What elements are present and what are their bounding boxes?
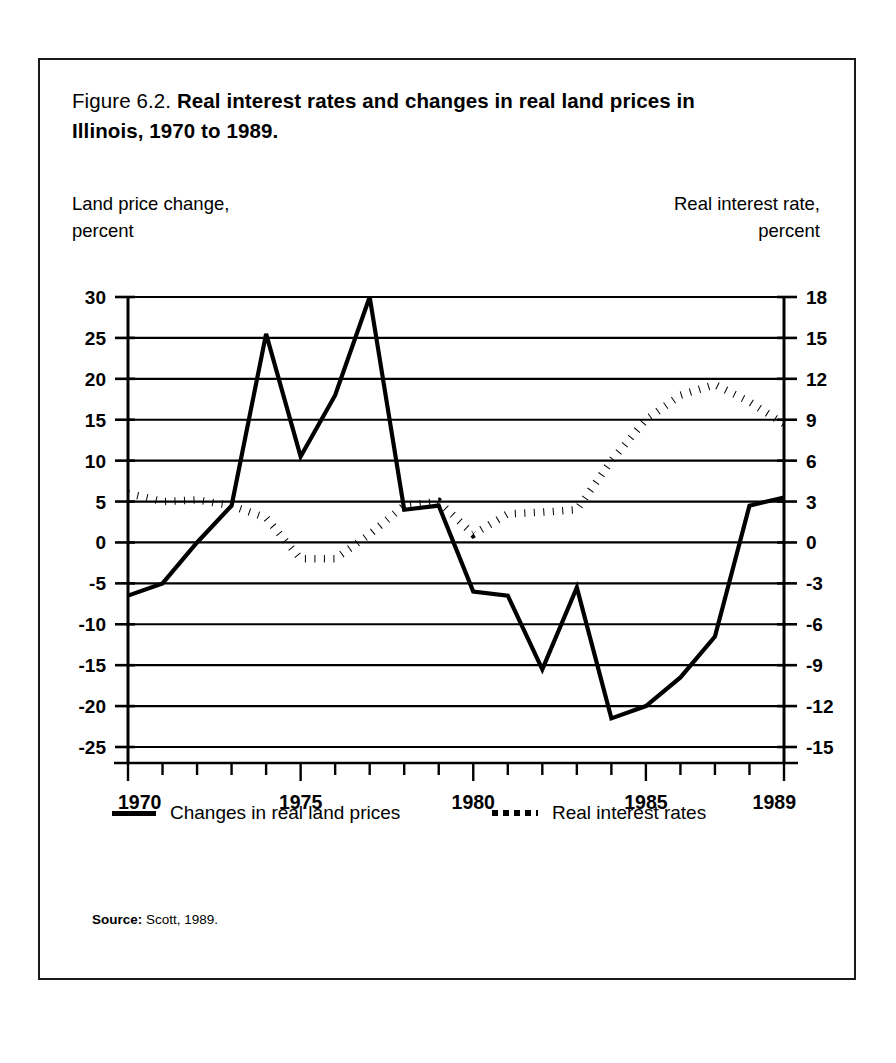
legend-item-land-prices: Changes in real land prices bbox=[112, 802, 400, 824]
y-axis-left-labels: 302520151050-5-10-15-20-25 bbox=[79, 287, 107, 758]
y-axis-right-tick-label: -12 bbox=[806, 696, 833, 717]
y-axis-right-tick-label: 0 bbox=[806, 532, 817, 553]
y-axis-right-ticks bbox=[777, 297, 797, 747]
dotted-line-swatch bbox=[492, 810, 538, 816]
x-minor-ticks-group bbox=[128, 763, 784, 781]
y-axis-left-tick-label: 15 bbox=[85, 410, 107, 431]
y-axis-left-tick-label: -5 bbox=[89, 573, 106, 594]
y-axis-left-tick-label: 5 bbox=[95, 492, 106, 513]
y-axis-left-ticks bbox=[115, 297, 135, 747]
y-axis-right-tick-label: 3 bbox=[806, 492, 817, 513]
legend-label-land-prices: Changes in real land prices bbox=[170, 802, 400, 824]
y-axis-right-tick-label: -6 bbox=[806, 614, 823, 635]
y-axis-left-tick-label: 0 bbox=[95, 532, 106, 553]
series-line-land-prices bbox=[128, 297, 784, 718]
y-axis-right-tick-label: -3 bbox=[806, 573, 823, 594]
y-axis-left-tick-label: -25 bbox=[79, 737, 107, 758]
y-axis-right-tick-label: 12 bbox=[806, 369, 827, 390]
legend-label-interest-rates: Real interest rates bbox=[552, 802, 706, 824]
source-label: Source: bbox=[92, 912, 142, 927]
y-axis-left-tick-label: 10 bbox=[85, 451, 106, 472]
y-axis-right-tick-label: 18 bbox=[806, 287, 827, 308]
y-axis-right-tick-label: -15 bbox=[806, 737, 834, 758]
y-axis-left-tick-label: -20 bbox=[79, 696, 106, 717]
figure-frame: Figure 6.2. Real interest rates and chan… bbox=[38, 58, 856, 980]
y-axis-left-tick-label: -10 bbox=[79, 614, 106, 635]
y-axis-left-tick-label: 20 bbox=[85, 369, 106, 390]
source-note: Source: Scott, 1989. bbox=[92, 912, 218, 927]
axis-lines-group bbox=[114, 297, 798, 763]
gridlines-group bbox=[128, 297, 784, 747]
solid-line-swatch bbox=[112, 811, 156, 816]
y-axis-left-tick-label: -15 bbox=[79, 655, 107, 676]
y-axis-right-tick-label: 15 bbox=[806, 328, 828, 349]
chart-svg: 302520151050-5-10-15-20-25 1815129630-3-… bbox=[40, 60, 858, 820]
y-axis-left-tick-label: 30 bbox=[85, 287, 106, 308]
legend-item-interest-rates: Real interest rates bbox=[492, 802, 706, 824]
y-axis-right-tick-label: 6 bbox=[806, 451, 817, 472]
y-axis-right-tick-label: -9 bbox=[806, 655, 823, 676]
chart-legend: Changes in real land prices Real interes… bbox=[40, 802, 858, 842]
y-axis-right-labels: 1815129630-3-6-9-12-15 bbox=[806, 287, 834, 758]
series-line-interest-rates bbox=[128, 385, 784, 559]
y-axis-right-tick-label: 9 bbox=[806, 410, 817, 431]
y-axis-left-tick-label: 25 bbox=[85, 328, 107, 349]
chart-plot-area: 302520151050-5-10-15-20-25 1815129630-3-… bbox=[40, 60, 858, 982]
source-text: Scott, 1989. bbox=[146, 912, 218, 927]
data-series-group bbox=[128, 297, 784, 718]
